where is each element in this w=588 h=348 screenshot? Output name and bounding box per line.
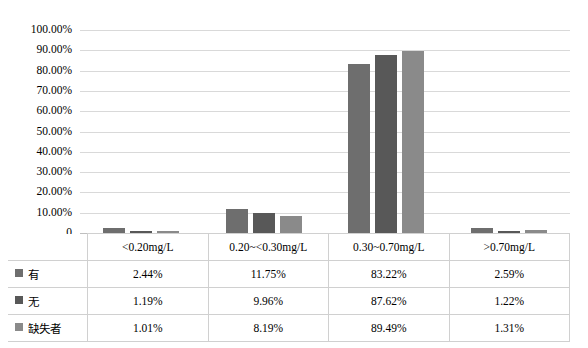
y-axis-tick-label: 20.00%: [37, 187, 72, 199]
table-value-cell: 2.44%: [88, 261, 209, 288]
table-value-cell: 11.75%: [208, 261, 329, 288]
bar-group: [325, 30, 448, 233]
y-axis-tick-label: 100.00%: [31, 24, 72, 36]
plot-area: [80, 30, 570, 233]
bar-group: [80, 30, 203, 233]
table-value-cell: 1.31%: [449, 315, 570, 342]
bar-group: [203, 30, 326, 233]
table-value-cell: 87.62%: [329, 288, 450, 315]
y-axis-tick-label: 30.00%: [37, 166, 72, 178]
y-axis-tick-label: 60.00%: [37, 105, 72, 117]
bar-chart-with-data-table: 010.00%20.00%30.00%40.00%50.00%60.00%70.…: [0, 0, 588, 348]
bar: [226, 209, 248, 233]
table-value-cell: 8.19%: [208, 315, 329, 342]
bar-groups: [80, 30, 570, 233]
legend-label: 有: [28, 268, 39, 282]
y-axis-tick-label: 90.00%: [37, 45, 72, 57]
legend-entry: 无: [8, 288, 88, 315]
bar: [375, 55, 397, 233]
y-axis-tick-label: 80.00%: [37, 65, 72, 77]
table-value-cell: 1.01%: [88, 315, 209, 342]
legend-label: 无: [28, 295, 39, 309]
legend-entry: 有: [8, 261, 88, 288]
table-value-cell: 1.19%: [88, 288, 209, 315]
bar-group-bars: [203, 30, 326, 233]
y-axis-tick-label: 70.00%: [37, 85, 72, 97]
table-value-cell: 83.22%: [329, 261, 450, 288]
bar: [253, 213, 275, 233]
legend-swatch-icon: [15, 296, 23, 304]
table-value-cell: 2.59%: [449, 261, 570, 288]
y-axis-tick-label: 10.00%: [37, 207, 72, 219]
category-axis-label: >0.70mg/L: [449, 234, 570, 261]
legend-label: 缺失者: [28, 322, 61, 336]
table-row: 缺失者1.01%8.19%89.49%1.31%: [8, 315, 570, 342]
table-value-cell: 1.22%: [449, 288, 570, 315]
table-corner-cell: [8, 234, 88, 261]
bar: [402, 51, 424, 233]
bar-group: [448, 30, 571, 233]
category-axis-label: 0.20~<0.30mg/L: [208, 234, 329, 261]
bar-group-bars: [325, 30, 448, 233]
legend-entry: 缺失者: [8, 315, 88, 342]
table-value-cell: 89.49%: [329, 315, 450, 342]
legend-swatch-icon: [15, 269, 23, 277]
category-axis-label: 0.30~0.70mg/L: [329, 234, 450, 261]
legend-swatch-icon: [15, 323, 23, 331]
table-value-cell: 9.96%: [208, 288, 329, 315]
y-axis-tick-label: 50.00%: [37, 126, 72, 138]
bar-group-bars: [448, 30, 571, 233]
bar-group-bars: [80, 30, 203, 233]
table-row: 有2.44%11.75%83.22%2.59%: [8, 261, 570, 288]
table-row: 无1.19%9.96%87.62%1.22%: [8, 288, 570, 315]
y-axis: 010.00%20.00%30.00%40.00%50.00%60.00%70.…: [0, 30, 76, 233]
chart-data-table: <0.20mg/L0.20~<0.30mg/L0.30~0.70mg/L>0.7…: [8, 233, 570, 342]
bar: [348, 64, 370, 233]
y-axis-tick-label: 40.00%: [37, 146, 72, 158]
bar: [280, 216, 302, 233]
category-axis-label: <0.20mg/L: [88, 234, 209, 261]
table-header-row: <0.20mg/L0.20~<0.30mg/L0.30~0.70mg/L>0.7…: [8, 234, 570, 261]
data-table-body: <0.20mg/L0.20~<0.30mg/L0.30~0.70mg/L>0.7…: [8, 234, 570, 342]
